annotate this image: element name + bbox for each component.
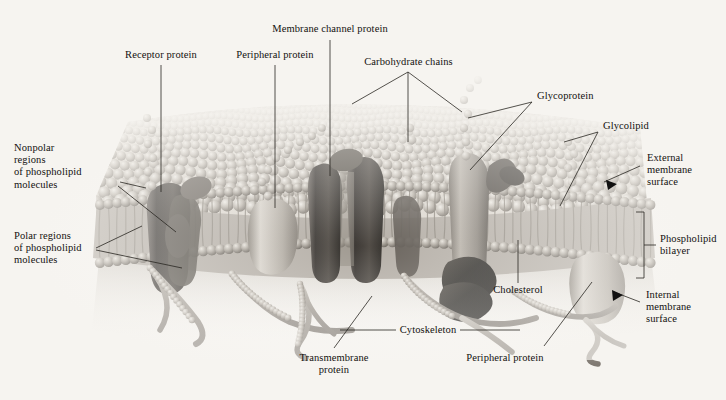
membrane-diagram: Receptor protein Peripheral protein Memb… bbox=[0, 0, 726, 400]
label-receptor-protein: Receptor protein bbox=[112, 49, 210, 61]
label-nonpolar-regions: Nonpolar regions of phospholipid molecul… bbox=[14, 142, 82, 191]
label-carbohydrate-chains: Carbohydrate chains bbox=[352, 56, 465, 68]
label-glycolipid: Glycolipid bbox=[603, 120, 649, 132]
label-phospholipid-bilayer: Phospholipid bilayer bbox=[660, 233, 717, 257]
label-polar-regions: Polar regions of phospholipid molecules bbox=[14, 230, 82, 267]
label-glycoprotein: Glycoprotein bbox=[537, 90, 594, 102]
label-cytoskeleton: Cytoskeleton bbox=[396, 324, 460, 336]
atmospheric-fade bbox=[0, 60, 726, 360]
label-transmembrane-protein: Transmembrane protein bbox=[272, 352, 396, 376]
label-external-membrane-surface: External membrane surface bbox=[647, 152, 692, 189]
label-peripheral-protein-bottom: Peripheral protein bbox=[453, 352, 557, 364]
label-cholesterol: Cholesterol bbox=[484, 284, 552, 296]
label-peripheral-protein-top: Peripheral protein bbox=[224, 49, 326, 61]
label-membrane-channel-protein: Membrane channel protein bbox=[253, 23, 407, 35]
label-internal-membrane-surface: Internal membrane surface bbox=[646, 289, 691, 326]
